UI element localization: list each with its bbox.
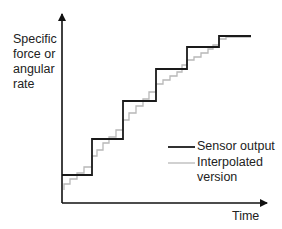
y-axis-label-line: rate [13, 77, 61, 92]
legend-sensor-label: Sensor output [197, 139, 275, 154]
y-axis-label-line: Specific [13, 32, 61, 47]
y-axis-label: Specific force or angular rate [13, 32, 61, 92]
x-axis-label: Time [232, 209, 259, 224]
legend-interpolated-label: Interpolated version [197, 155, 263, 185]
legend-interpolated-label-line: Interpolated [197, 155, 263, 170]
y-axis-label-line: force or [13, 47, 61, 62]
legend-interpolated-label-line: version [197, 170, 263, 185]
y-axis-label-line: angular [13, 62, 61, 77]
